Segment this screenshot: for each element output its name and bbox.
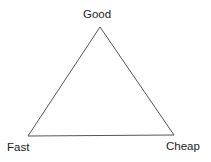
vertex-label-fast: Fast bbox=[7, 142, 29, 154]
triangle-diagram bbox=[0, 0, 211, 162]
triangle-shape bbox=[28, 27, 174, 136]
vertex-label-cheap: Cheap bbox=[166, 141, 200, 153]
vertex-label-good: Good bbox=[83, 9, 111, 21]
